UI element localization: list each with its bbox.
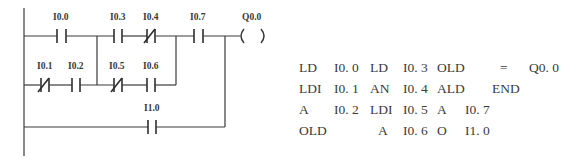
il-op: A [378, 123, 388, 139]
contact-label: I0.5 [109, 61, 125, 71]
il-op: OLD [437, 60, 465, 76]
il-op: AN [370, 81, 390, 97]
il-op: LD [370, 60, 388, 76]
il-arg: I0. 7 [465, 102, 490, 118]
contact-label: I1.0 [144, 103, 160, 113]
il-op: ALD [437, 81, 465, 97]
coil-Q0.0: Q0.0 [241, 12, 264, 43]
contact-I0.4: I0.4 [143, 12, 159, 43]
contact-I0.7: I0.7 [190, 12, 206, 43]
il-arg: I1. 0 [465, 123, 490, 139]
contact-label: I0.2 [68, 61, 84, 71]
il-arg: I0. 1 [334, 81, 359, 97]
coil-label: Q0.0 [242, 12, 262, 22]
ladder-diagram: I0.0 I0.3 I0.4 I0.7 Q0.0 I0.1 [0, 0, 290, 162]
il-arg: I0. 6 [403, 123, 428, 139]
contact-I0.2: I0.2 [68, 61, 84, 92]
contact-I0.6: I0.6 [143, 61, 159, 92]
il-arg: I0. 2 [334, 102, 359, 118]
contact-I0.1: I0.1 [37, 61, 53, 92]
contact-label: I0.4 [143, 12, 159, 22]
contact-label: I0.1 [37, 61, 53, 71]
il-op: A [299, 102, 309, 118]
contact-label: I0.6 [143, 61, 159, 71]
il-op: END [492, 81, 520, 97]
il-op: LDI [370, 102, 393, 118]
il-arg: I0. 4 [403, 81, 428, 97]
contact-I0.0: I0.0 [53, 12, 69, 43]
il-op: LDI [299, 81, 322, 97]
contact-label: I0.0 [53, 12, 69, 22]
il-arg: I0. 3 [403, 60, 428, 76]
il-op: LD [299, 60, 317, 76]
il-arg: I0. 5 [403, 102, 428, 118]
contact-I0.5: I0.5 [109, 61, 125, 92]
contact-I1.0: I1.0 [144, 103, 160, 134]
il-arg: I0. 0 [334, 60, 359, 76]
il-op: = [500, 60, 508, 76]
contact-label: I0.3 [110, 12, 126, 22]
il-op: A [437, 102, 447, 118]
il-arg: Q0. 0 [529, 60, 559, 76]
il-op: OLD [299, 123, 327, 139]
contact-label: I0.7 [190, 12, 206, 22]
contact-I0.3: I0.3 [110, 12, 126, 43]
il-op: O [437, 123, 447, 139]
